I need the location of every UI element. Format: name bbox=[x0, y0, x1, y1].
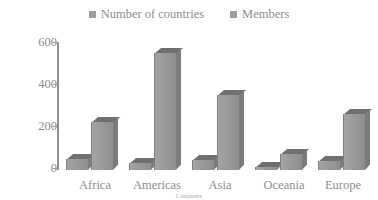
bar-oceania-members bbox=[280, 154, 302, 170]
bar-front-face bbox=[255, 167, 277, 170]
legend-item-number-of-countries: Number of countries bbox=[89, 8, 204, 21]
x-category-label-americas: Americas bbox=[119, 178, 195, 192]
y-tick-label: 400 bbox=[13, 78, 57, 90]
legend-swatch-icon bbox=[89, 11, 96, 18]
bar-group-europe bbox=[318, 42, 374, 170]
x-category-label-asia: Asia bbox=[186, 178, 254, 192]
bar-front-face bbox=[91, 122, 113, 170]
bar-front-face bbox=[318, 161, 340, 170]
bar-side-face bbox=[302, 149, 307, 170]
y-tick-label: 0 bbox=[13, 162, 57, 174]
y-tick-400: 400 bbox=[0, 78, 57, 90]
bar-front-face bbox=[154, 53, 176, 170]
bar-asia-members bbox=[217, 95, 239, 170]
bar-side-face bbox=[239, 90, 244, 170]
plot-area: 600 400 200 0 Africa bbox=[0, 30, 378, 200]
y-tick-label: 200 bbox=[13, 120, 57, 132]
x-category-label-europe: Europe bbox=[308, 178, 378, 192]
legend-label: Members bbox=[242, 8, 289, 21]
y-tick-mark bbox=[53, 168, 58, 169]
y-axis-line bbox=[57, 42, 59, 170]
legend-label: Number of countries bbox=[101, 8, 204, 21]
legend-item-members: Members bbox=[230, 8, 289, 21]
y-tick-0: 0 bbox=[0, 162, 57, 174]
bar-front-face bbox=[66, 159, 88, 170]
y-tick-600: 600 bbox=[0, 36, 57, 48]
x-axis-title: Continents bbox=[0, 193, 378, 200]
bar-group-africa bbox=[66, 42, 122, 170]
bar-front-face bbox=[343, 114, 365, 170]
y-tick-mark bbox=[53, 126, 58, 127]
bar-side-face bbox=[365, 109, 370, 170]
bar-group-asia bbox=[192, 42, 248, 170]
bar-africa-number-of-countries bbox=[66, 159, 88, 170]
bar-oceania-number-of-countries bbox=[255, 167, 277, 170]
chart-legend: Number of countries Members bbox=[0, 8, 378, 21]
y-tick-200: 200 bbox=[0, 120, 57, 132]
bar-front-face bbox=[217, 95, 239, 170]
bar-side-face bbox=[176, 48, 181, 170]
bar-asia-number-of-countries bbox=[192, 160, 214, 170]
bar-side-face bbox=[113, 116, 118, 170]
bar-europe-members bbox=[343, 114, 365, 170]
bar-chart: Number of countries Members 600 400 200 … bbox=[0, 0, 378, 200]
bar-front-face bbox=[192, 160, 214, 170]
y-tick-mark bbox=[53, 42, 58, 43]
bar-europe-number-of-countries bbox=[318, 161, 340, 170]
bar-group-oceania bbox=[255, 42, 311, 170]
bar-americas-number-of-countries bbox=[129, 163, 151, 170]
bar-americas-members bbox=[154, 53, 176, 170]
y-tick-mark bbox=[53, 84, 58, 85]
bar-front-face bbox=[129, 163, 151, 170]
bar-front-face bbox=[280, 154, 302, 170]
y-tick-label: 600 bbox=[13, 36, 57, 48]
bar-group-americas bbox=[129, 42, 185, 170]
legend-swatch-icon bbox=[230, 11, 237, 18]
bar-africa-members bbox=[91, 122, 113, 170]
